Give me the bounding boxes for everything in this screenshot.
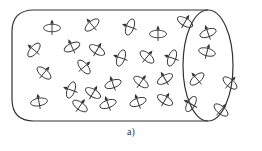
cylinder-outline xyxy=(12,10,233,121)
caption-label: a) xyxy=(127,126,135,137)
spin-icon xyxy=(29,92,48,110)
spin-symbols-group xyxy=(22,10,242,120)
spin-icon xyxy=(82,81,104,103)
spin-icon xyxy=(130,70,153,92)
spin-icon xyxy=(33,61,56,84)
spin-icon xyxy=(127,91,148,111)
spin-icon xyxy=(150,26,167,42)
spin-icon xyxy=(154,88,176,110)
spin-icon xyxy=(110,47,130,68)
spin-icon xyxy=(60,79,80,100)
spin-icon xyxy=(22,38,45,61)
spin-icon xyxy=(73,55,96,78)
spin-icon xyxy=(102,73,123,93)
spin-icon xyxy=(185,67,208,90)
spin-icon xyxy=(80,13,103,36)
spin-icon xyxy=(197,22,218,42)
spin-icon xyxy=(153,67,175,89)
cylinder-body-outline xyxy=(12,10,208,121)
spin-icon xyxy=(69,94,92,116)
figure-caption: a) xyxy=(0,126,262,137)
spin-icon xyxy=(86,38,108,60)
spin-icon xyxy=(197,42,217,61)
spin-icon xyxy=(210,98,233,121)
spin-icon xyxy=(119,16,139,37)
spin-icon xyxy=(136,45,159,68)
spin-icon xyxy=(161,47,181,68)
spin-icon xyxy=(44,20,61,36)
spin-icon xyxy=(179,92,201,114)
spin-icon xyxy=(61,36,83,57)
